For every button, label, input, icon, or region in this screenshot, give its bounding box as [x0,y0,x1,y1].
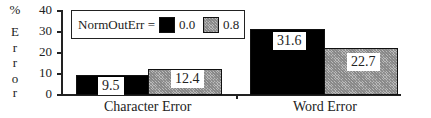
y-tick [57,31,63,33]
legend-swatch-0.0 [159,17,175,33]
y-axis-label-char: E [8,25,22,38]
value-label: 12.4 [171,70,204,88]
legend: NormOutErr = 0.0 0.8 [71,10,245,39]
y-tick-label: 20 [30,44,52,60]
y-tick-label: 40 [30,2,52,18]
legend-label: 0.0 [179,17,195,33]
y-tick-label: 10 [30,65,52,81]
y-tick-label: 0 [30,86,52,102]
y-axis-label-char: r [8,86,22,99]
y-tick [57,73,63,75]
y-tick [57,52,63,54]
category-label: Word Error [293,99,357,115]
y-axis-label-char: r [8,41,22,54]
y-tick-label: 30 [30,23,52,39]
x-tick [236,94,238,99]
category-label: Character Error [104,99,191,115]
value-label: 31.6 [273,32,306,50]
y-tick [57,10,63,12]
value-label: 9.5 [98,77,124,95]
value-label: 22.7 [347,53,380,71]
y-axis-label-char: % [8,3,22,16]
legend-swatch-0.8 [203,17,219,33]
legend-title: NormOutErr = [78,17,155,33]
legend-label: 0.8 [223,17,239,33]
y-axis-label-char: r [8,56,22,69]
y-axis-label-char: o [8,72,22,85]
